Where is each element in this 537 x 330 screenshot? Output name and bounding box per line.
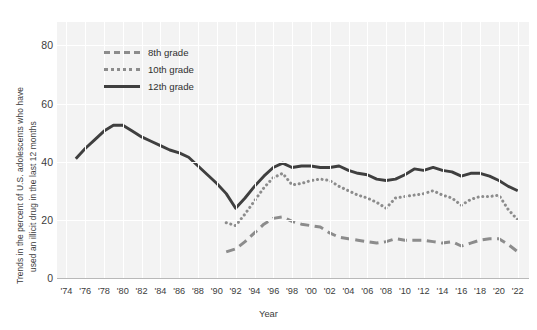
gridline-vertical (255, 22, 256, 278)
x-tick-label: '08 (380, 286, 392, 296)
x-tick-label: '92 (230, 286, 242, 296)
x-tick-label: '80 (117, 286, 129, 296)
gridline-horizontal (57, 220, 529, 221)
x-tick-label: '88 (192, 286, 204, 296)
x-axis-title: Year (0, 308, 537, 319)
x-tick-label: '96 (267, 286, 279, 296)
legend: 8th grade 10th grade 12th grade (104, 44, 224, 95)
x-tick-label: '82 (136, 286, 148, 296)
x-tick-label: '04 (343, 286, 355, 296)
series-line-8th-grade (226, 217, 517, 252)
x-tick-label: '86 (173, 286, 185, 296)
gridline-vertical (367, 22, 368, 278)
gridline-vertical (311, 22, 312, 278)
gridline-horizontal (57, 104, 529, 105)
gridline-vertical (349, 22, 350, 278)
gridline-vertical (330, 22, 331, 278)
gridline-vertical (480, 22, 481, 278)
legend-item-8th[interactable]: 8th grade (104, 44, 224, 61)
x-tick-label: '20 (493, 286, 505, 296)
series-line-10th-grade (226, 173, 517, 225)
y-tick-label: 20 (13, 214, 53, 226)
gridline-vertical (405, 22, 406, 278)
legend-item-12th[interactable]: 12th grade (104, 78, 224, 95)
gridline-vertical (236, 22, 237, 278)
x-tick-label: '18 (474, 286, 486, 296)
legend-label-10th: 10th grade (148, 64, 194, 75)
x-tick-label: '00 (305, 286, 317, 296)
legend-swatch-8th-icon (104, 51, 140, 54)
x-tick-label: '84 (154, 286, 166, 296)
chart-container: Trends in the percent of U.S. adolescent… (0, 0, 537, 330)
legend-swatch-10th-icon (104, 68, 140, 71)
legend-item-10th[interactable]: 10th grade (104, 61, 224, 78)
legend-swatch-12th-icon (104, 85, 140, 88)
legend-label-8th: 8th grade (148, 47, 189, 58)
x-tick-label: '76 (79, 286, 91, 296)
x-tick-label: '98 (286, 286, 298, 296)
x-tick-label: '94 (249, 286, 261, 296)
legend-label-12th: 12th grade (148, 81, 194, 92)
x-tick-label: '22 (512, 286, 524, 296)
gridline-horizontal (57, 162, 529, 163)
y-tick-label: 80 (13, 39, 53, 51)
x-tick-label: '12 (418, 286, 430, 296)
gridline-vertical (386, 22, 387, 278)
x-tick-label: '14 (437, 286, 449, 296)
x-tick-label: '06 (361, 286, 373, 296)
gridline-vertical (443, 22, 444, 278)
gridline-vertical (66, 22, 67, 278)
x-axis-ticks: '74'76'78'80'82'84'86'88'90'92'94'96'98'… (0, 286, 537, 302)
x-tick-label: '02 (324, 286, 336, 296)
gridline-vertical (85, 22, 86, 278)
x-tick-label: '78 (98, 286, 110, 296)
gridline-vertical (461, 22, 462, 278)
x-tick-label: '10 (399, 286, 411, 296)
x-tick-label: '90 (211, 286, 223, 296)
y-tick-label: 40 (13, 156, 53, 168)
gridline-vertical (292, 22, 293, 278)
gridline-vertical (273, 22, 274, 278)
x-tick-label: '74 (60, 286, 72, 296)
x-tick-label: '16 (455, 286, 467, 296)
y-axis-ticks: 020406080 (0, 0, 53, 330)
y-tick-label: 60 (13, 98, 53, 110)
y-tick-label: 0 (13, 272, 53, 284)
gridline-vertical (499, 22, 500, 278)
gridline-vertical (424, 22, 425, 278)
x-axis-line (57, 278, 529, 279)
gridline-vertical (518, 22, 519, 278)
